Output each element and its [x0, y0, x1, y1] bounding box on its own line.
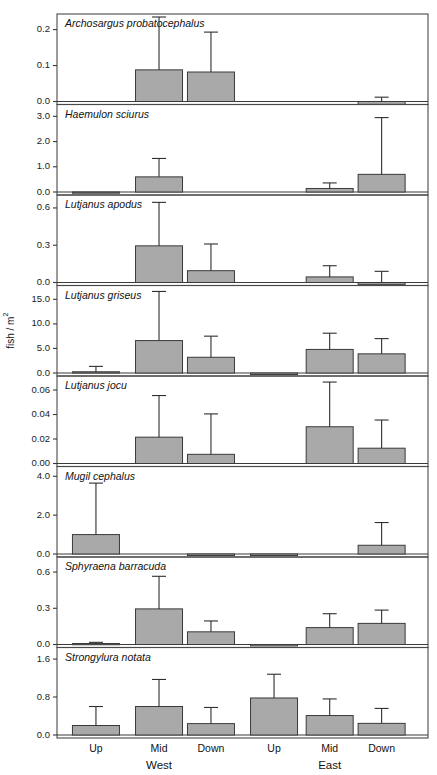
y-tick-label: 5.0: [37, 342, 50, 353]
bar: [72, 535, 119, 554]
y-tick-label: 2.0: [37, 135, 50, 146]
x-group-label-east: East: [318, 759, 342, 771]
x-tick-label: Down: [368, 742, 395, 754]
bar: [358, 102, 405, 105]
y-tick-label: 10.0: [32, 317, 51, 328]
y-tick-label: 2.0: [37, 509, 50, 520]
species-label: Mugil cephalus: [65, 470, 136, 482]
bar: [136, 707, 183, 735]
y-tick-label: 0.6: [37, 201, 50, 212]
bar: [136, 437, 183, 463]
x-tick-label: Up: [267, 742, 281, 754]
species-label: Lutjanus griseus: [65, 289, 142, 301]
bar: [358, 723, 405, 735]
bar: [72, 726, 119, 735]
panel-mugil-cephalus: 0.02.04.0Mugil cephalus: [37, 467, 428, 559]
y-tick-label: 0.04: [32, 408, 51, 419]
bar: [358, 448, 405, 463]
species-label: Haemulon sciurus: [65, 108, 150, 120]
x-tick-label: Mid: [321, 742, 338, 754]
bar: [187, 357, 234, 373]
bar: [251, 373, 298, 374]
y-tick-label: 0.0: [37, 548, 50, 559]
bar: [306, 628, 353, 645]
y-tick-label: 0.6: [37, 566, 50, 577]
y-tick-label: 0.0: [37, 729, 50, 740]
panel-lutjanus-jocu: 0.000.020.040.06Lutjanus jocu: [32, 376, 429, 468]
bar: [358, 354, 405, 373]
y-tick-label: 0.3: [37, 239, 50, 250]
bar: [187, 724, 234, 735]
x-tick-label: Up: [89, 742, 103, 754]
y-tick-label: 0.0: [37, 276, 50, 287]
y-tick-label: 1.0: [37, 160, 50, 171]
y-tick-label: 0.8: [37, 691, 50, 702]
bar: [306, 349, 353, 373]
bar: [251, 554, 298, 556]
fish-density-bar-chart-figure: 0.00.10.2Archosargus probatocephalus0.01…: [0, 0, 437, 775]
y-tick-label: 1.6: [37, 653, 50, 664]
bar: [306, 427, 353, 464]
species-label: Archosargus probatocephalus: [64, 17, 205, 29]
bar: [136, 177, 183, 192]
panel-haemulon-sciurus: 0.01.02.03.0Haemulon sciurus: [37, 105, 428, 197]
panel-lutjanus-apodus: 0.00.30.6Lutjanus apodus: [37, 195, 428, 287]
species-label: Lutjanus apodus: [65, 198, 143, 210]
y-tick-label: 0.0: [37, 186, 50, 197]
y-tick-label: 0.2: [37, 23, 50, 34]
bar: [187, 271, 234, 283]
panel-strongylura-notata: 0.00.81.6Strongylura notata: [37, 648, 428, 740]
species-label: Lutjanus jocu: [65, 379, 127, 391]
species-label: Sphyraena barracuda: [65, 560, 166, 572]
bar: [306, 277, 353, 283]
bar: [358, 174, 405, 192]
x-group-label-west: West: [146, 759, 173, 771]
panel-lutjanus-griseus: 0.05.010.015.0Lutjanus griseus: [32, 286, 429, 378]
bar: [187, 454, 234, 463]
bar: [136, 246, 183, 283]
x-tick-label: Down: [198, 742, 225, 754]
bar: [187, 72, 234, 101]
bar: [136, 341, 183, 373]
y-axis-title: fish / m2: [2, 313, 17, 349]
x-tick-label: Mid: [151, 742, 168, 754]
bar: [72, 372, 119, 373]
y-tick-label: 0.1: [37, 59, 50, 70]
bar: [187, 554, 234, 556]
panel-sphyraena-barracuda: 0.00.30.6Sphyraena barracuda: [37, 557, 428, 649]
bar: [306, 716, 353, 735]
bar: [136, 609, 183, 645]
y-tick-label: 0.06: [32, 384, 51, 395]
bar: [187, 632, 234, 645]
y-tick-label: 0.0: [37, 95, 50, 106]
species-label: Strongylura notata: [65, 651, 151, 663]
chart-canvas: 0.00.10.2Archosargus probatocephalus0.01…: [0, 0, 437, 775]
y-tick-label: 3.0: [37, 110, 50, 121]
y-tick-label: 0.00: [32, 457, 51, 468]
y-tick-label: 4.0: [37, 470, 50, 481]
bar: [251, 645, 298, 646]
bar: [251, 698, 298, 735]
svg-text:fish / m2: fish / m2: [2, 313, 17, 349]
bar: [72, 644, 119, 645]
bar: [358, 283, 405, 285]
bar: [72, 192, 119, 193]
y-tick-label: 0.0: [37, 638, 50, 649]
bar: [306, 188, 353, 192]
bar: [136, 70, 183, 102]
y-tick-label: 15.0: [32, 293, 51, 304]
y-tick-label: 0.02: [32, 433, 51, 444]
x-axis: UpMidDownUpMidDownWestEast: [89, 742, 395, 771]
panel-archosargus-probatocephalus: 0.00.10.2Archosargus probatocephalus: [37, 14, 428, 106]
bar: [358, 545, 405, 554]
y-tick-label: 0.3: [37, 602, 50, 613]
y-tick-label: 0.0: [37, 367, 50, 378]
bar: [358, 623, 405, 644]
